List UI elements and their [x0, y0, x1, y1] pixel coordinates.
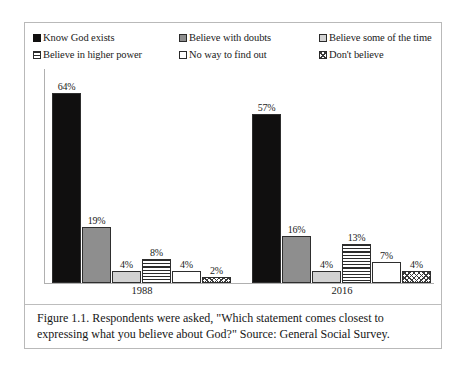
bar-value-label: 19%: [88, 215, 106, 226]
bar-believe-with-doubts-2016[interactable]: [282, 236, 311, 284]
figure-frame: Know God exists Believe with doubts Beli…: [24, 22, 442, 349]
bar-believe-with-doubts-1988[interactable]: [82, 227, 111, 283]
legend-swatch-diagonal-crosshatch-icon: [319, 51, 327, 59]
bar-value-label: 13%: [348, 232, 366, 243]
bar-value-label: 8%: [150, 247, 163, 258]
bar-slot: 2%: [202, 76, 231, 283]
y-axis-line: [44, 69, 45, 284]
bar-slot: 13%: [342, 76, 371, 283]
bar-slot: 4%: [402, 76, 431, 283]
bar-value-label: 64%: [58, 81, 76, 92]
legend-label: Believe in higher power: [43, 49, 142, 60]
legend-swatch-solid-black-icon: [33, 34, 41, 42]
legend-swatch-solid-light-icon: [319, 34, 327, 42]
bar-slot: 7%: [372, 76, 401, 283]
chart-legend: Know God exists Believe with doubts Beli…: [33, 30, 435, 62]
legend-label: Know God exists: [43, 32, 114, 43]
legend-item-no-way-to-find-out: No way to find out: [179, 47, 319, 62]
legend-swatch-horizontal-stripes-icon: [33, 51, 41, 59]
figure-caption: Figure 1.1. Respondents were asked, "Whi…: [37, 311, 429, 342]
bar-slot: 4%: [172, 76, 201, 283]
caption-divider: [25, 304, 441, 305]
bar-slot: 4%: [312, 76, 341, 283]
bar-value-label: 57%: [258, 102, 276, 113]
bar-dont-believe-2016[interactable]: [402, 271, 431, 283]
bar-value-label: 16%: [288, 224, 306, 235]
bar-slot: 16%: [282, 76, 311, 283]
bar-group-1988: 64% 19% 4% 8% 4% 2%: [52, 76, 232, 283]
bar-value-label: 4%: [180, 259, 193, 270]
legend-swatch-empty-white-icon: [179, 51, 187, 59]
bar-value-label: 4%: [320, 259, 333, 270]
bar-know-god-exists-2016[interactable]: [252, 114, 281, 283]
bar-value-label: 2%: [210, 265, 223, 276]
bar-value-label: 7%: [380, 250, 393, 261]
bar-know-god-exists-1988[interactable]: [52, 93, 81, 283]
legend-label: Believe with doubts: [189, 32, 271, 43]
x-axis-label-1988: 1988: [82, 285, 202, 296]
x-axis-line: [44, 283, 434, 284]
plot-area: 64% 19% 4% 8% 4% 2%: [25, 69, 443, 291]
bar-group-2016: 57% 16% 4% 13% 7% 4%: [252, 76, 432, 283]
legend-item-believe-with-doubts: Believe with doubts: [179, 30, 319, 45]
legend-label: Believe some of the time: [329, 32, 432, 43]
bar-believe-some-of-the-time-2016[interactable]: [312, 271, 341, 283]
bar-no-way-to-find-out-1988[interactable]: [172, 271, 201, 283]
bar-believe-in-higher-power-2016[interactable]: [342, 244, 371, 283]
bar-dont-believe-1988[interactable]: [202, 277, 231, 283]
x-axis-label-2016: 2016: [282, 285, 402, 296]
legend-label: Don't believe: [329, 49, 384, 60]
bar-no-way-to-find-out-2016[interactable]: [372, 262, 401, 283]
bar-believe-some-of-the-time-1988[interactable]: [112, 271, 141, 283]
legend-item-know-god-exists: Know God exists: [33, 30, 179, 45]
bar-slot: 64%: [52, 76, 81, 283]
legend-label: No way to find out: [189, 49, 267, 60]
legend-item-believe-in-higher-power: Believe in higher power: [33, 47, 179, 62]
legend-swatch-solid-gray-icon: [179, 34, 187, 42]
bar-slot: 4%: [112, 76, 141, 283]
bar-value-label: 4%: [120, 259, 133, 270]
legend-item-dont-believe: Don't believe: [319, 47, 435, 62]
bar-slot: 8%: [142, 76, 171, 283]
bar-value-label: 4%: [410, 259, 423, 270]
bar-slot: 19%: [82, 76, 111, 283]
bar-believe-in-higher-power-1988[interactable]: [142, 259, 171, 283]
legend-item-believe-some-of-the-time: Believe some of the time: [319, 30, 435, 45]
bar-slot: 57%: [252, 76, 281, 283]
